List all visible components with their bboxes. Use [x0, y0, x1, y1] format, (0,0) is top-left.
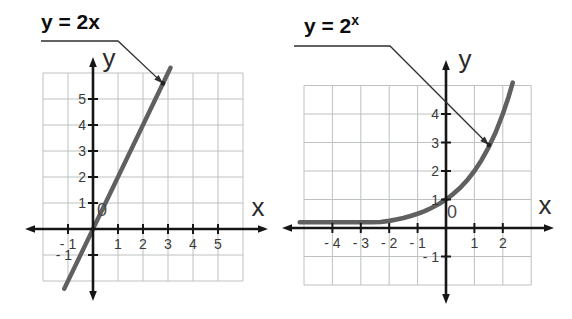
y-tick-label: 2 [431, 163, 439, 179]
y-axis-bottom-arrowhead-icon [442, 294, 450, 304]
figure: - 11234554321- 10xyy = 2x- 4- 3- 2- 1124… [0, 0, 572, 319]
y-tick-label: - 1 [56, 247, 73, 263]
y-axis-bottom-arrowhead-icon [89, 291, 97, 301]
origin-label: 0 [447, 202, 457, 222]
x-tick-label: - 4 [324, 235, 341, 251]
y-axis-label: y [103, 43, 116, 73]
y-tick-label: 3 [431, 135, 439, 151]
figure-canvas: - 11234554321- 10xyy = 2x- 4- 3- 2- 1124… [0, 0, 572, 319]
y-axis-label: y [459, 44, 472, 74]
x-axis-right-arrowhead-icon [258, 225, 268, 233]
y-tick-label: 4 [78, 117, 86, 133]
exponential-graph: - 4- 3- 2- 1124321- 10xyy = 2x [282, 12, 554, 304]
y-tick-label: 4 [431, 106, 439, 122]
y-tick-label: 1 [431, 192, 439, 208]
x-axis-label: x [252, 192, 265, 222]
x-axis-left-arrowhead-icon [282, 224, 292, 232]
chart-title: y = 2x [41, 10, 100, 33]
x-tick-label: 4 [189, 236, 197, 252]
x-tick-label: - 2 [381, 235, 398, 251]
x-axis-right-arrowhead-icon [544, 224, 554, 232]
x-tick-label: 3 [164, 236, 172, 252]
x-axis-label: x [539, 190, 552, 220]
x-tick-label: 1 [114, 236, 122, 252]
y-axis-top-arrowhead-icon [89, 57, 97, 67]
linear-graph: - 11234554321- 10xyy = 2x [25, 10, 268, 301]
y-tick-label: 1 [78, 195, 86, 211]
x-tick-label: 5 [214, 236, 222, 252]
y-axis-top-arrowhead-icon [442, 60, 450, 70]
chart-title: y = 2x [304, 12, 359, 37]
y-tick-label: 3 [78, 143, 86, 159]
x-tick-label: 2 [139, 236, 147, 252]
callout-dot [487, 143, 492, 148]
y-tick-label: - 1 [423, 249, 440, 265]
x-tick-label: - 3 [353, 235, 370, 251]
x-tick-label: 2 [499, 235, 507, 251]
callout-dot [161, 81, 166, 86]
function-curve [300, 83, 513, 223]
x-tick-label: 1 [471, 235, 479, 251]
x-axis-left-arrowhead-icon [25, 225, 35, 233]
origin-label: 0 [97, 200, 107, 220]
y-tick-label: 2 [78, 169, 86, 185]
y-tick-label: 5 [78, 91, 86, 107]
